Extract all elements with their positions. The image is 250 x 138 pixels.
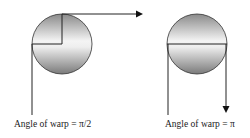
left-panel-label: Angle of warp = π/2 [14,119,91,129]
right-panel [167,14,230,115]
right-arrow-head-icon [223,106,230,113]
right-panel-label: Angle of warp = π [165,119,235,129]
left-arrow-head-icon [136,11,143,18]
warp-angle-diagram [0,0,250,138]
left-panel [32,11,143,116]
